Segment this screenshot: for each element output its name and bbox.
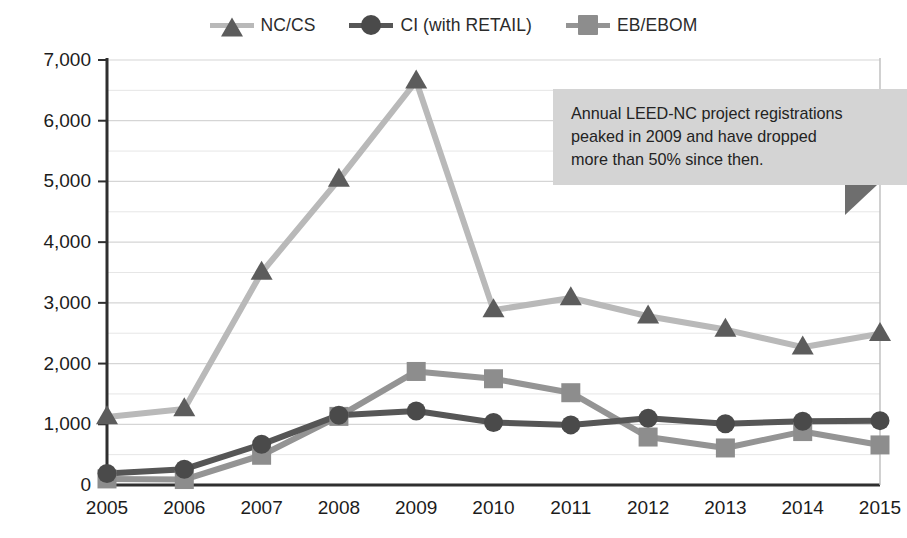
- callout-tail-icon: [845, 185, 877, 215]
- y-tick-label: 2,000: [0, 353, 91, 375]
- y-tick-label: 4,000: [0, 231, 91, 253]
- x-tick-label: 2013: [704, 497, 746, 519]
- data-point-ci-with-retail: [793, 412, 812, 431]
- data-point-nc-cs: [869, 322, 891, 341]
- data-point-ci-with-retail: [871, 411, 890, 430]
- y-tick-label: 3,000: [0, 292, 91, 314]
- data-point-eb-ebom: [561, 383, 580, 402]
- data-point-eb-ebom: [484, 369, 503, 388]
- data-point-ci-with-retail: [175, 460, 194, 479]
- y-tick-label: 0: [0, 474, 91, 496]
- plot-area: 01,0002,0003,0004,0005,0006,0007,000 200…: [0, 0, 907, 538]
- y-tick-label: 5,000: [0, 170, 91, 192]
- leed-registrations-line-chart: NC/CS CI (with RETAIL) EB/EBOM 01,0002,0…: [0, 0, 907, 538]
- x-tick-label: 2008: [318, 497, 360, 519]
- data-point-eb-ebom: [716, 438, 735, 457]
- x-tick-label: 2005: [86, 497, 128, 519]
- x-tick-label: 2006: [163, 497, 205, 519]
- data-point-ci-with-retail: [329, 406, 348, 425]
- data-point-eb-ebom: [639, 428, 658, 447]
- data-point-eb-ebom: [871, 435, 890, 454]
- callout-line-3: more than 50% since then.: [571, 148, 891, 171]
- callout-line-2: peaked in 2009 and have dropped: [571, 125, 891, 148]
- x-tick-label: 2007: [240, 497, 282, 519]
- data-point-ci-with-retail: [716, 414, 735, 433]
- y-tick-label: 6,000: [0, 110, 91, 132]
- plot-svg: [0, 0, 907, 538]
- data-point-ci-with-retail: [484, 413, 503, 432]
- data-point-ci-with-retail: [252, 435, 271, 454]
- x-tick-label: 2010: [472, 497, 514, 519]
- y-tick-label: 1,000: [0, 413, 91, 435]
- callout-annotation: Annual LEED-NC project registrations pea…: [553, 89, 907, 185]
- data-point-ci-with-retail: [561, 415, 580, 434]
- data-point-ci-with-retail: [639, 409, 658, 428]
- y-tick-label: 7,000: [0, 49, 91, 71]
- callout-line-1: Annual LEED-NC project registrations: [571, 102, 891, 125]
- x-tick-label: 2011: [550, 497, 591, 519]
- x-tick-label: 2015: [859, 497, 901, 519]
- x-tick-label: 2014: [782, 497, 824, 519]
- data-point-ci-with-retail: [98, 464, 117, 483]
- data-point-ci-with-retail: [407, 401, 426, 420]
- data-point-nc-cs: [405, 69, 427, 88]
- data-point-nc-cs: [560, 286, 582, 305]
- data-point-eb-ebom: [407, 362, 426, 381]
- x-tick-label: 2012: [627, 497, 669, 519]
- x-tick-label: 2009: [395, 497, 437, 519]
